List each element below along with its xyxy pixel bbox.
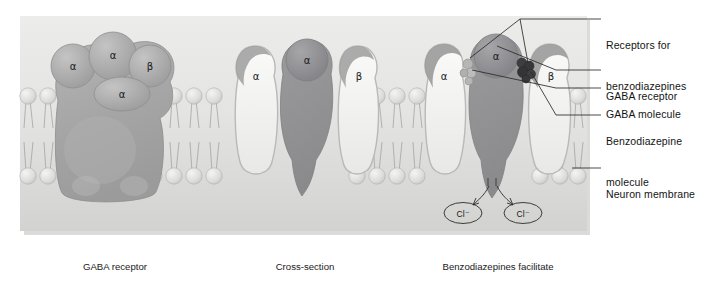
cross-section-receptor: α α β	[235, 39, 378, 196]
chloride-ion-left-label: Cl⁻	[456, 209, 469, 219]
subunit-label-alpha: α	[253, 71, 260, 82]
subunit-label-alpha: α	[304, 55, 311, 66]
label-line-1: Neuron membrane	[606, 188, 695, 202]
caption-gaba-receptor: GABA receptor	[55, 236, 175, 295]
left-gaba-receptor: α α β α	[51, 32, 174, 202]
caption-line-1: Cross-section	[245, 261, 365, 273]
figure-canvas: α α β α α α β	[0, 0, 710, 295]
label-line-1: Benzodiazepine	[606, 135, 682, 149]
caption-line-1: GABA receptor	[55, 261, 175, 273]
subunit-label-alpha: α	[110, 50, 117, 61]
chloride-ion-right-label: Cl⁻	[516, 209, 529, 219]
subunit-label-alpha: α	[70, 61, 77, 72]
subunit-label-beta: β	[548, 71, 554, 82]
label-line-1: Receptors for	[606, 39, 686, 53]
caption-benzodiazepines: Benzodiazepines facilitate GABA binding.…	[412, 236, 584, 295]
subunit-label-beta: β	[356, 71, 362, 82]
caption-cross-section: Cross-section	[245, 236, 365, 295]
right-receptor-open: α α β	[425, 34, 571, 198]
subunit-label-alpha: α	[493, 51, 500, 62]
label-neuron-membrane: Neuron membrane	[606, 161, 695, 229]
caption-line-1: Benzodiazepines facilitate	[412, 261, 584, 273]
subunit-label-beta: β	[147, 61, 153, 72]
subunit-label-alpha: α	[119, 89, 126, 100]
subunit-label-alpha: α	[441, 71, 448, 82]
